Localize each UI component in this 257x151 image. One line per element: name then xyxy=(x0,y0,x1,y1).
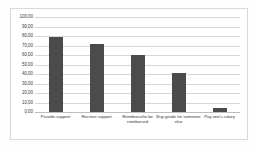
y-tick-label: 30,00 xyxy=(22,81,33,86)
y-tick-label: 60,00 xyxy=(22,53,33,58)
bar xyxy=(49,37,63,112)
y-tick-label: 100,00 xyxy=(20,15,33,20)
bar-chart: 100,0090,0080,0070,0060,0050,0040,0030,0… xyxy=(0,0,257,151)
gridline-0 xyxy=(35,112,240,113)
bar xyxy=(172,73,186,112)
bar xyxy=(131,55,145,112)
bar xyxy=(213,108,227,112)
x-axis-labels: Provide supportReceive supportReimburse/… xyxy=(35,114,240,138)
bar xyxy=(90,44,104,112)
y-tick-label: 90,00 xyxy=(22,24,33,29)
y-tick-label: 70,00 xyxy=(22,43,33,48)
bars-layer xyxy=(35,17,240,112)
y-axis: 100,0090,0080,0070,0060,0050,0040,0030,0… xyxy=(0,17,33,112)
y-tick-label: 50,00 xyxy=(22,62,33,67)
bar-slot xyxy=(158,17,199,112)
y-tick-label: 20,00 xyxy=(22,91,33,96)
bar-slot xyxy=(35,17,76,112)
y-tick-label: 40,00 xyxy=(22,72,33,77)
plot-area xyxy=(35,17,240,112)
bar-slot xyxy=(117,17,158,112)
bar-slot xyxy=(199,17,240,112)
y-tick-label: 10,00 xyxy=(22,100,33,105)
y-tick-label: 80,00 xyxy=(22,34,33,39)
x-axis-category-label: Pay one's salary xyxy=(195,114,244,119)
bar-slot xyxy=(76,17,117,112)
